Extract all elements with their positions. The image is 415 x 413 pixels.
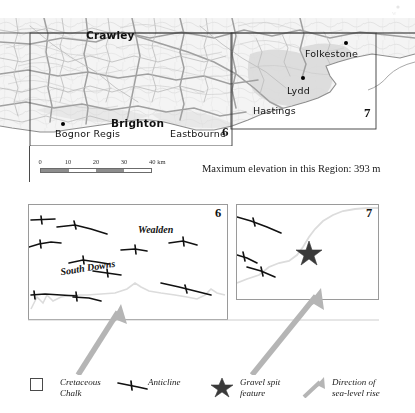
legend-item-gravel-spit: Gravel spit feature — [208, 376, 280, 398]
city-dot-bognor-regis — [61, 122, 65, 126]
place-label-lydd: Lydd — [287, 85, 310, 96]
legend-label-chalk-line2: Chalk — [60, 388, 82, 398]
anticline-icon — [116, 376, 148, 398]
panel-6-label-wealden: Wealden — [138, 224, 173, 235]
scale-seg-3 — [96, 169, 124, 172]
scale-tick-10: 10 — [65, 158, 72, 165]
star-icon — [208, 376, 240, 398]
city-dot-lydd — [301, 76, 305, 80]
legend-label-sea-level-line1: Direction of — [332, 377, 375, 387]
panel-7-svg — [237, 205, 378, 299]
page-corner-artifact: w — [392, 2, 404, 14]
scale-bar-graphic — [40, 168, 152, 173]
panel-7-number: 7 — [366, 206, 372, 221]
legend-item-cretaceous-chalk: Cretaceous Chalk — [28, 376, 101, 398]
scale-seg-4 — [124, 169, 152, 172]
place-label-bognor-regis: Bognor Regis — [55, 128, 120, 139]
map-region-number-6: 6 — [222, 124, 229, 140]
panel-6-number: 6 — [215, 206, 221, 221]
legend-label-chalk-line1: Cretaceous — [60, 377, 101, 387]
panel-6-coastline — [31, 283, 225, 309]
max-elevation-note: Maximum elevation in this Region: 393 m — [202, 163, 381, 174]
scale-tick-30: 30 — [121, 158, 128, 165]
scale-bar-ticks: 0 10 20 30 40 km — [40, 158, 152, 167]
scale-tick-40km: 40 km — [149, 158, 165, 165]
svg-text:w: w — [392, 10, 397, 16]
structure-panel-7 — [236, 204, 379, 300]
anticline-tick-marks-7 — [243, 218, 263, 276]
channel-line — [368, 62, 415, 90]
place-label-eastbourne: Eastbourne — [170, 128, 226, 139]
place-label-crawley: Crawley — [86, 29, 135, 41]
chalk-square-icon — [28, 376, 60, 398]
legend-label-anticline: Anticline — [148, 377, 181, 387]
scale-tick-20: 20 — [93, 158, 100, 165]
relief-map-svg — [0, 18, 415, 146]
place-label-folkestone: Folkestone — [305, 48, 358, 59]
scale-seg-1 — [41, 169, 69, 172]
gravel-spit-star-icon — [296, 241, 322, 265]
figure-root: Crawley Brighton Bognor Regis Eastbourne… — [0, 0, 415, 413]
land-mass — [0, 18, 415, 146]
legend-item-sea-level-rise: Direction of sea-level rise — [300, 376, 380, 398]
anticline-axes-group-7 — [237, 217, 281, 277]
legend-label-sea-level-line2: sea-level rise — [332, 388, 380, 398]
scale-bar: 0 10 20 30 40 km — [40, 158, 152, 178]
top-relief-map — [0, 18, 415, 146]
legend-item-anticline: Anticline — [116, 376, 181, 398]
city-dot-folkestone — [344, 41, 348, 45]
place-label-hastings: Hastings — [253, 105, 296, 116]
structure-panel-6 — [28, 204, 228, 320]
region-6-left-extension — [29, 146, 30, 182]
figure-legend: Cretaceous Chalk Anticline Gr — [28, 376, 408, 410]
grey-arrow-icon — [300, 376, 332, 398]
scale-seg-2 — [69, 169, 97, 172]
map-region-number-7: 7 — [364, 105, 371, 121]
scale-tick-0: 0 — [38, 158, 41, 165]
panel-6-svg — [29, 205, 227, 319]
legend-label-gravel-spit-line1: Gravel spit — [240, 377, 280, 387]
legend-label-gravel-spit-line2: feature — [240, 388, 265, 398]
sea-level-arrow-right-icon — [252, 288, 324, 375]
anticline-axes-group-6 — [29, 219, 211, 301]
